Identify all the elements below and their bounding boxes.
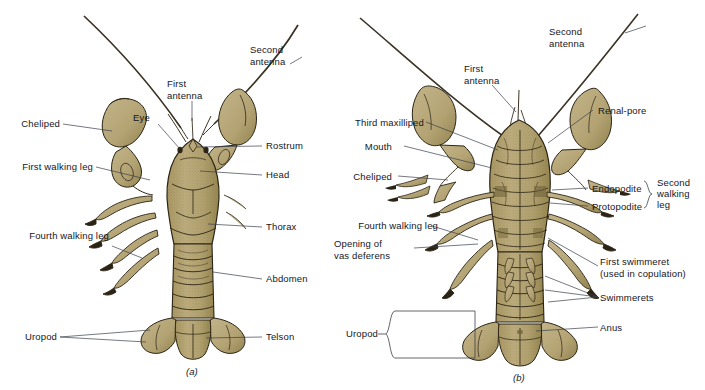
crayfish-anatomy-figure: Second antenna First antenna Eye Chelipe… [0,0,705,390]
label-second-walking-leg-b: Second walking leg [657,177,690,210]
label-first-walking-leg-a: First walking leg [0,161,93,173]
label-uropod-b: Uropod [334,328,378,340]
label-mouth-b: Mouth [334,141,392,153]
label-fourth-walking-leg-a: Fourth walking leg [0,230,109,242]
label-telson-a: Telson [266,331,294,343]
label-eye-a: Eye [133,112,150,124]
panel-a-drawing [60,16,302,359]
label-uropod-a: Uropod [0,331,57,343]
antennule-center-b [518,90,519,120]
leader-second-antenna-a [290,57,302,64]
label-endopodite-b: Endopodite [592,183,642,195]
label-head-a: Head [266,169,289,181]
walking-legs-right-a [224,195,246,229]
cephalothorax-b [490,120,550,252]
label-abdomen-a: Abdomen [266,273,308,285]
label-thorax-a: Thorax [266,221,296,233]
label-renal-pore-b: Renal-pore [598,105,647,117]
walking-legs-left-a [85,196,159,295]
tail-fan-b [463,322,578,366]
leader-uropod-a-2 [60,330,150,337]
leader-first-antenna-b [492,85,516,112]
label-third-maxilliped-b: Third maxilliped [334,117,424,129]
panel-caption-b: (b) [513,372,525,383]
leader-rostrum-a [197,146,262,147]
antennule-extra-a [192,118,193,140]
abdomen-b [496,252,544,322]
label-first-swimmeret-b: First swimmeret (used in copulation) [600,256,686,279]
leader-uropod-a-1 [60,337,146,342]
label-second-antenna-b: Second antenna [549,26,584,49]
label-opening-of-vas-deferens-b: Opening of vas deferens [334,238,410,261]
panel-caption-a: (a) [186,366,198,377]
label-first-antenna-b: First antenna [464,63,499,86]
label-second-antenna-a: Second antenna [250,44,285,67]
label-anus-b: Anus [600,322,622,334]
label-rostrum-a: Rostrum [266,140,303,152]
first-antenna-left-a [168,114,186,142]
leader-endopodite-b [552,188,588,190]
label-protopodite-b: Protopodite [592,201,642,213]
label-first-antenna-a: First antenna [167,78,202,101]
leader-fourth-walking-leg-b [432,226,478,240]
abdomen-a [172,244,214,318]
label-swimmerets-b: Swimmerets [600,292,654,304]
bracket-uropod-pointer [386,311,395,358]
label-fourth-walking-leg-b: Fourth walking leg [334,220,438,232]
label-cheliped-a: Cheliped [0,118,60,130]
second-antenna-left-flagellum-a-tip [181,128,188,139]
leader-opening-vas-deferens-b [414,244,478,248]
eye-left-a [177,147,182,153]
eye-right-a [203,147,208,153]
tail-fan-a [141,318,245,359]
leader-abdomen-a [213,272,262,279]
leader-swimmerets-b-3 [548,297,598,302]
bracket-second-walking-leg [644,181,652,208]
label-cheliped-b: Cheliped [334,171,392,183]
